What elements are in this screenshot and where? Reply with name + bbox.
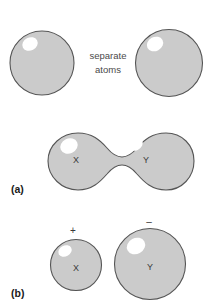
panel-b-cation-charge: +	[70, 225, 76, 236]
separate-atoms-caption-line2: atoms	[95, 64, 121, 75]
panel-a-atom-label-y: Y	[143, 155, 149, 165]
panel-b-group: X + Y – (b)	[11, 216, 186, 300]
separate-atoms-group: separate atoms	[10, 30, 203, 97]
figure-container: separate atoms X Y (a) X + Y	[0, 0, 220, 303]
panel-a-label: (a)	[11, 183, 24, 195]
bonding-diagram-svg: separate atoms X Y (a) X + Y	[0, 0, 220, 303]
panel-b-cation: X +	[51, 225, 102, 291]
panel-b-cation-label: X	[73, 263, 79, 273]
panel-a-atom-label-x: X	[73, 155, 79, 165]
separate-atom-right-body	[136, 30, 203, 97]
separate-atom-left-body	[10, 31, 74, 95]
separate-atom-right	[136, 30, 203, 97]
panel-b-anion-label: Y	[147, 262, 153, 272]
panel-a-group: X Y (a)	[11, 133, 194, 195]
panel-b-anion: Y –	[115, 216, 186, 300]
panel-b-label: (b)	[11, 287, 24, 299]
separate-atoms-caption-line1: separate	[90, 50, 127, 61]
panel-b-anion-charge: –	[146, 216, 152, 227]
separate-atom-left	[10, 31, 74, 95]
